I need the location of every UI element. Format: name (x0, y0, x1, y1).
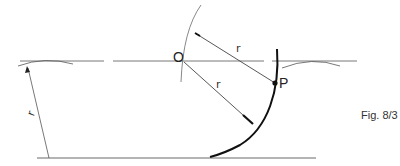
figure-caption: Fig. 8/3 (361, 110, 398, 121)
label-p: P (279, 76, 288, 90)
radius-line-lower-tick (243, 115, 253, 124)
label-r-upper: r (236, 43, 241, 54)
left-radius-arrowhead (25, 66, 30, 73)
center-construction-arc (181, 5, 201, 82)
point-p-marker (272, 80, 277, 85)
label-r-lower: r (216, 79, 221, 90)
label-o: O (173, 50, 184, 64)
right-construction-arc (282, 61, 340, 68)
geometry-diagram (0, 0, 400, 166)
main-curve (210, 49, 277, 157)
radius-line-upper-tick (195, 33, 200, 36)
radius-line-lower (184, 62, 253, 124)
radius-line-upper (195, 33, 275, 83)
